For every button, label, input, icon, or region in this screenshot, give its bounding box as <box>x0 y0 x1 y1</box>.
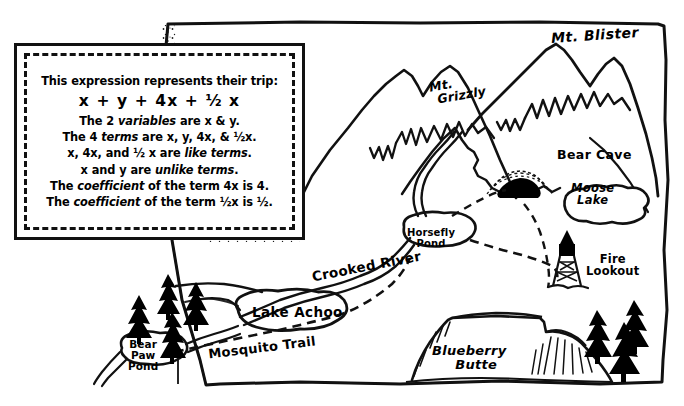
label-horsefly-pond: Horsefly Pond <box>407 228 455 249</box>
coefficient-value-1: 4 <box>257 179 265 193</box>
bear-cave-shape <box>487 171 553 198</box>
label-moose-lake-line2: Lake <box>571 194 614 206</box>
coefficient-term-2: ½x <box>220 195 239 209</box>
label-blueberry-butte-line1: Blueberry <box>432 344 507 358</box>
lesson-line-coefficient-1: The coefficient of the term 4x is 4. <box>50 178 269 194</box>
variable-count: 2 <box>106 114 114 128</box>
lesson-line-unlike-terms: x and y are unlike terms. <box>81 162 239 178</box>
keyword-variables: variables <box>118 114 176 128</box>
term-count: 4 <box>90 130 98 144</box>
map-illustration-page: Mt. Blister Mt. Grizzly Bear Cave Moose … <box>0 0 684 406</box>
coefficient-term-1: 4x <box>224 179 239 193</box>
label-bear-cave: Bear Cave <box>557 148 632 161</box>
lesson-line-terms: The 4 terms are x, y, 4x, & ½x. <box>62 129 256 145</box>
fire-lookout-tower <box>548 230 588 288</box>
keyword-coefficient-1: coefficient <box>77 179 144 193</box>
lesson-expression: x + y + 4x + ½ x <box>79 89 240 113</box>
keyword-unlike-terms: unlike terms <box>155 163 234 177</box>
lesson-line-like-terms: x, 4x, and ½ x are like terms. <box>67 145 252 161</box>
pine-trees-right <box>584 300 649 382</box>
terms-value: x, y, 4x, & ½x <box>167 130 253 144</box>
pine-tree <box>584 310 612 364</box>
lesson-line-coefficient-2: The coefficient of the term ½x is ½. <box>46 194 273 210</box>
pine-tree <box>183 282 209 331</box>
label-fire-lookout: Fire Lookout <box>586 253 639 277</box>
label-horsefly-pond-line1: Horsefly <box>407 228 455 239</box>
label-bear-paw-pond-line3: Pond <box>128 361 158 372</box>
label-blueberry-butte: Blueberry Butte <box>432 344 507 371</box>
variables-value: x & y <box>205 114 236 128</box>
keyword-like-terms: like terms <box>184 146 247 160</box>
like-terms-value: x, 4x, and ½ x <box>67 146 156 160</box>
expression-explanation-inner: This expression represents their trip: x… <box>24 53 295 230</box>
label-lake-achoo: Lake Achoo <box>252 305 343 319</box>
keyword-terms: terms <box>101 130 138 144</box>
keyword-coefficient-2: coefficient <box>73 195 140 209</box>
pine-tree <box>126 295 152 344</box>
label-fire-lookout-line2: Lookout <box>586 265 639 277</box>
lesson-line-variables: The 2 variables are x & y. <box>79 113 240 129</box>
expression-explanation-box: This expression represents their trip: x… <box>14 43 305 240</box>
coefficient-value-2: ½ <box>257 195 269 209</box>
label-bear-paw-pond: Bear Paw Pond <box>128 339 158 372</box>
label-blueberry-butte-line2: Butte <box>446 358 507 372</box>
lesson-line-intro: This expression represents their trip: <box>41 73 278 89</box>
unlike-terms-value: x and y <box>81 163 127 177</box>
pine-tree <box>157 274 180 320</box>
label-moose-lake: Moose Lake <box>571 182 614 206</box>
